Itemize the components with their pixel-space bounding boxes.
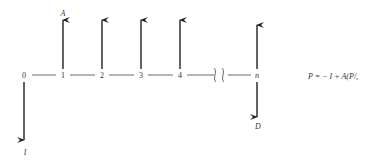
- period-label-4: 4: [178, 71, 182, 80]
- arrow-label-D: D: [254, 122, 261, 131]
- period-label-1: 1: [61, 71, 65, 80]
- up-arrows: [63, 20, 257, 69]
- arrow-label-A: A: [60, 9, 66, 18]
- axis-break-icon: [214, 68, 224, 82]
- period-label-3: 3: [139, 71, 143, 80]
- arrow-label-I: I: [23, 148, 27, 157]
- period-label-0: 0: [22, 71, 26, 80]
- cash-flow-diagram: 0 1 2 3 4 n A I D P = − I + A(P/,: [0, 0, 368, 164]
- period-label-2: 2: [100, 71, 104, 80]
- period-label-n: n: [255, 71, 259, 80]
- formula: P = − I + A(P/,: [307, 72, 358, 81]
